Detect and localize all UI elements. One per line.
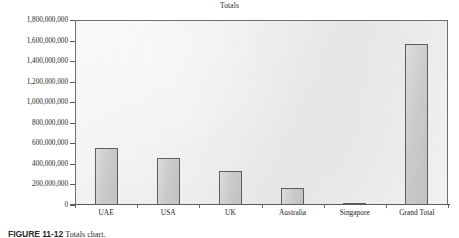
bar [405, 44, 428, 205]
x-axis-category-label: UAE [75, 207, 137, 218]
y-axis-tick-label: 1,800,000,000 [0, 16, 68, 24]
x-axis-category-label: Australia [262, 207, 324, 218]
y-axis-tick-label: 200,000,000 [0, 180, 68, 188]
figure-caption-text: Totals chart. [65, 230, 105, 238]
y-axis-tick-label: 800,000,000 [0, 119, 68, 127]
bars-layer [75, 20, 448, 205]
y-axis-tick-label: 1,200,000,000 [0, 78, 68, 86]
bar [157, 158, 180, 205]
y-axis-tick-label: 1,400,000,000 [0, 57, 68, 65]
x-axis-category-label: USA [137, 207, 199, 218]
figure-caption: FIGURE 11-12 Totals chart. [8, 228, 458, 238]
y-axis-tick-label: 1,600,000,000 [0, 37, 68, 45]
figure-number: FIGURE 11-12 [8, 229, 63, 238]
figure-container: Totals 1,800,000,0001,600,000,0001,400,0… [0, 0, 459, 238]
bar [95, 148, 118, 205]
x-axis-category-label: Grand Total [386, 207, 448, 218]
x-axis-category-labels: UAEUSAUKAustraliaSingaporeGrand Total [75, 207, 448, 221]
x-axis-tick-mark [448, 205, 449, 208]
y-axis-tick-label: 1,000,000,000 [0, 98, 68, 106]
y-axis-tick-label: 400,000,000 [0, 160, 68, 168]
x-axis-category-label: UK [199, 207, 261, 218]
chart-title: Totals [0, 1, 459, 11]
bar [281, 188, 304, 205]
y-axis-tick-label: 600,000,000 [0, 139, 68, 147]
x-axis-category-label: Singapore [324, 207, 386, 218]
y-axis-tick-label: 0 [0, 201, 68, 209]
y-axis-tick-labels: 1,800,000,0001,600,000,0001,400,000,0001… [0, 20, 68, 205]
bar [219, 171, 242, 205]
